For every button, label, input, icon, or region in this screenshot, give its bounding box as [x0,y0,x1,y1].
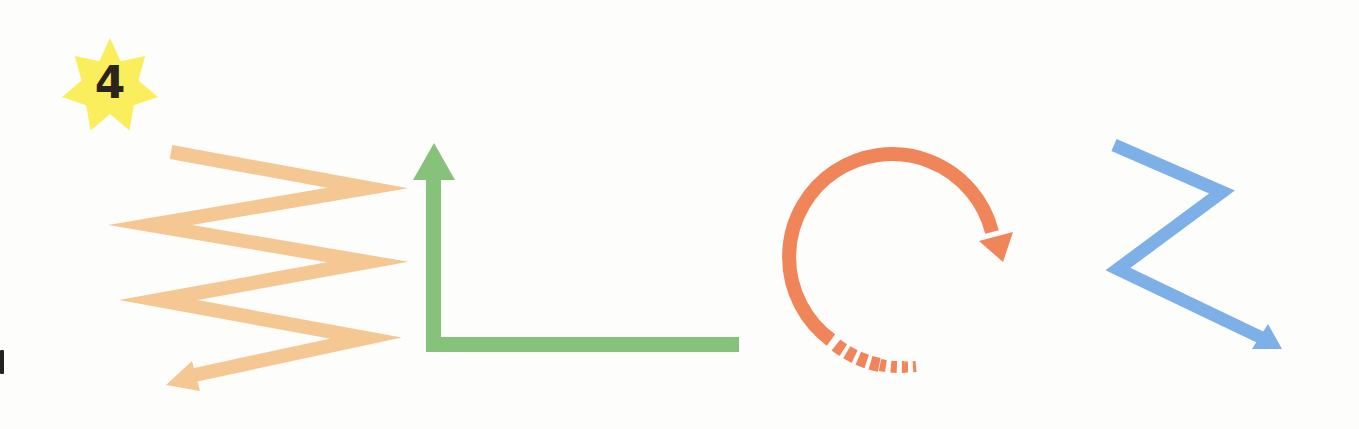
z-shaped-arrow-icon [1114,145,1282,349]
step-number-label: 4 [88,56,132,110]
edge-artifact-mark [0,350,4,374]
circular-arrow-icon [789,154,1013,367]
diagram-canvas: 4 [0,0,1359,429]
zigzag-arrow-icon [150,152,368,391]
arrows-svg [0,0,1359,429]
l-shaped-arrow-icon [413,143,739,352]
